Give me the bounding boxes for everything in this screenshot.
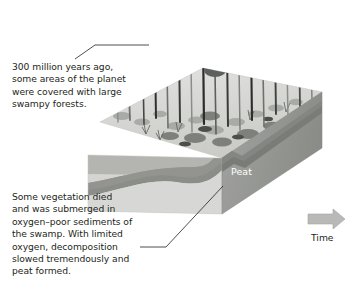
right-arrow-icon: [308, 209, 345, 229]
peat-layer-label: Peat: [231, 166, 252, 177]
time-axis-label: Time: [311, 232, 333, 243]
peat-formation-figure: 300 million years ago, some areas of the…: [0, 0, 357, 283]
leader-line-top: [75, 45, 149, 59]
bottom-annotation-text: Some vegetation died and was submerged i…: [12, 191, 162, 278]
top-annotation-text: 300 million years ago, some areas of the…: [12, 61, 158, 111]
